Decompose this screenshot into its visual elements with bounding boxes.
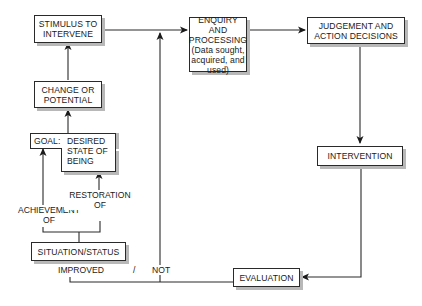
node-label: JUDGEMENT AND ACTION DECISIONS — [314, 21, 398, 41]
node-intervention: INTERVENTION — [317, 146, 403, 166]
node-label: INTERVENTION — [327, 151, 392, 161]
node-goal: GOAL: DESIRED STATE OF BEING — [30, 133, 116, 172]
node-label: SITUATION/STATUS — [38, 247, 120, 257]
diagram-canvas: STIMULUS TO INTERVENE CHANGE OR POTENTIA… — [0, 0, 422, 306]
node-label: CHANGE OR POTENTIAL — [42, 85, 95, 105]
node-stimulus-to-intervene: STIMULUS TO INTERVENE — [34, 15, 102, 43]
node-change-or-potential: CHANGE OR POTENTIAL — [34, 81, 102, 108]
edge-label-slash: / — [133, 265, 135, 275]
line-evaluation-to-improved — [70, 277, 233, 282]
edge-label-restoration: RESTORATION OF — [64, 190, 136, 210]
arrow-intervention-to-evaluation — [302, 166, 361, 277]
node-label: EVALUATION — [239, 273, 293, 283]
node-situation-status: SITUATION/STATUS — [31, 242, 126, 261]
node-label: ENQUIRY AND PROCESSING (Data sought, acq… — [189, 15, 247, 75]
goal-prefix: GOAL: — [34, 136, 60, 146]
goal-label: DESIRED STATE OF BEING — [67, 136, 108, 166]
node-evaluation: EVALUATION — [233, 268, 300, 287]
node-judgement-and-action: JUDGEMENT AND ACTION DECISIONS — [307, 17, 405, 44]
node-enquiry-and-processing: ENQUIRY AND PROCESSING (Data sought, acq… — [189, 17, 247, 72]
edge-label-improved: IMPROVED — [58, 265, 104, 275]
edge-label-not: NOT — [152, 265, 170, 275]
node-label: STIMULUS TO INTERVENE — [39, 19, 98, 39]
